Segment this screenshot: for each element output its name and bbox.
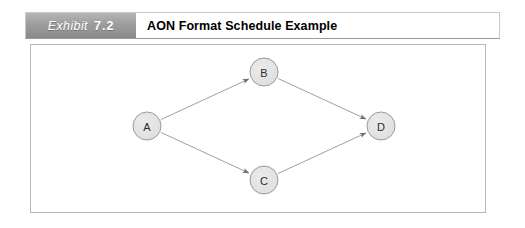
- exhibit-figure: Exhibit 7.2 AON Format Schedule Example …: [0, 0, 525, 228]
- exhibit-tag-word: Exhibit: [48, 19, 88, 33]
- exhibit-title: AON Format Schedule Example: [136, 13, 499, 38]
- exhibit-tag: Exhibit 7.2: [26, 13, 136, 38]
- exhibit-header: Exhibit 7.2 AON Format Schedule Example: [25, 12, 500, 39]
- exhibit-tag-number: 7.2: [94, 19, 114, 33]
- diagram-panel: [30, 44, 486, 213]
